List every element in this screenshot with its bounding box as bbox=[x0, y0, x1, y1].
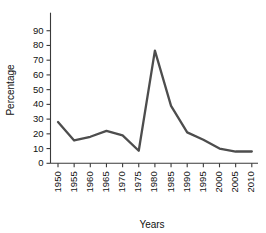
y-axis-ticks: 0102030405060708090 bbox=[33, 25, 51, 169]
y-tick-label: 0 bbox=[38, 157, 43, 168]
y-tick-label: 40 bbox=[33, 98, 44, 109]
x-tick-label: 1995 bbox=[197, 171, 208, 192]
y-tick-label: 20 bbox=[33, 128, 44, 139]
x-tick-label: 1980 bbox=[148, 171, 159, 192]
x-tick-label: 1950 bbox=[52, 171, 63, 192]
x-tick-label: 2010 bbox=[245, 171, 256, 192]
x-tick-label: 1960 bbox=[84, 171, 95, 192]
y-tick-label: 70 bbox=[33, 54, 44, 65]
x-tick-label: 1990 bbox=[181, 171, 192, 192]
x-tick-label: 1975 bbox=[132, 171, 143, 192]
y-tick-label: 30 bbox=[33, 113, 44, 124]
y-tick-label: 80 bbox=[33, 39, 44, 50]
data-series-line bbox=[58, 51, 252, 152]
y-tick-label: 10 bbox=[33, 143, 44, 154]
x-axis-title: Years bbox=[139, 219, 164, 230]
y-tick-label: 50 bbox=[33, 84, 44, 95]
x-tick-label: 1985 bbox=[165, 171, 176, 192]
line-chart: Percentage Years 0102030405060708090 195… bbox=[0, 0, 266, 233]
x-tick-label: 1965 bbox=[100, 171, 111, 192]
y-axis-title: Percentage bbox=[5, 64, 16, 116]
y-tick-label: 90 bbox=[33, 25, 44, 36]
x-tick-label: 1970 bbox=[116, 171, 127, 192]
x-tick-label: 1955 bbox=[68, 171, 79, 192]
x-tick-label: 2005 bbox=[229, 171, 240, 192]
x-axis-ticks: 1950195519601965197019751980198519901995… bbox=[52, 163, 257, 192]
chart-canvas: Percentage Years 0102030405060708090 195… bbox=[0, 0, 266, 233]
x-tick-label: 2000 bbox=[213, 171, 224, 192]
y-tick-label: 60 bbox=[33, 69, 44, 80]
